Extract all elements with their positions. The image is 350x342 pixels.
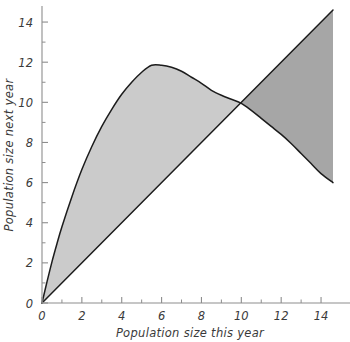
x-tick-label: 10	[234, 309, 249, 323]
y-tick-label: 4	[26, 216, 33, 230]
x-axis-tick-labels: 02468101214	[38, 309, 328, 323]
x-tick-label: 12	[274, 309, 289, 323]
curve-lines	[42, 10, 333, 303]
y-tick-label: 0	[26, 297, 33, 311]
chart-canvas: 02468101214 02468101214 Population size …	[0, 0, 350, 342]
y-tick-label: 6	[26, 176, 33, 190]
y-tick-label: 10	[18, 96, 33, 110]
x-tick-label: 0	[38, 309, 45, 323]
x-tick-label: 2	[78, 309, 85, 323]
x-tick-label: 8	[198, 309, 205, 323]
population-model-chart: 02468101214 02468101214 Population size …	[0, 0, 350, 342]
x-tick-label: 6	[158, 309, 165, 323]
y-axis-tick-labels: 02468101214	[18, 16, 33, 311]
y-axis-title: Population size next year	[2, 78, 16, 232]
fill-decline-region	[241, 10, 333, 183]
x-tick-label: 14	[314, 309, 329, 323]
x-axis-title: Population size this year	[116, 326, 265, 340]
fill-growth-region	[42, 65, 241, 303]
y-tick-label: 12	[18, 56, 33, 70]
x-axis-ticks	[42, 297, 321, 303]
y-tick-label: 14	[18, 16, 33, 30]
x-tick-label: 4	[118, 309, 125, 323]
y-axis-ticks	[42, 22, 48, 303]
y-tick-label: 2	[26, 256, 33, 270]
y-tick-label: 8	[26, 136, 33, 150]
series-replacement-line	[42, 10, 333, 303]
